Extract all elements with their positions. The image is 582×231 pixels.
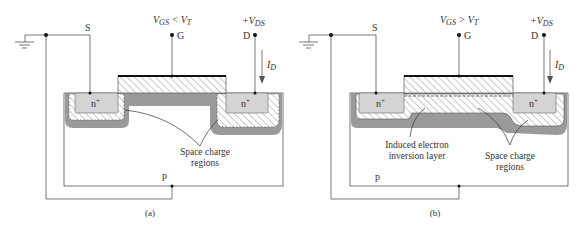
drain-terminal-dot <box>542 33 546 37</box>
ground-icon <box>299 35 318 48</box>
source-label: S <box>372 22 378 33</box>
drain-voltage-label: +VDS <box>242 15 265 28</box>
substrate-label-a: p <box>162 170 167 181</box>
gate-condition-label: VGS < VT <box>153 14 192 27</box>
panel-a: n+ n+ <box>15 14 283 218</box>
inversion-layer-label: Induced electroninversion layer <box>385 140 449 161</box>
drain-label: D <box>531 30 538 41</box>
drain-current-label: ID <box>554 59 564 72</box>
mosfet-figure: n+ n+ <box>0 0 582 231</box>
drain-current-label: ID <box>266 59 276 72</box>
ground-node-dot <box>44 33 48 37</box>
drain-label: D <box>243 30 250 41</box>
ground-node-dot <box>329 33 333 37</box>
gate-condition-label: VGS > VT <box>440 14 479 27</box>
gate-oxide <box>404 76 513 93</box>
caption-a: (a) <box>145 208 155 218</box>
panel-b: n+ n+ <box>299 14 568 218</box>
gate-terminal-dot <box>457 33 461 37</box>
caption-b: (b) <box>430 208 441 218</box>
substrate-label-b: p <box>375 171 380 182</box>
drain-current-arrow-icon <box>259 50 265 84</box>
gate-oxide <box>118 76 226 93</box>
gate-label: G <box>464 30 471 41</box>
drain-terminal-dot <box>253 33 257 37</box>
drain-voltage-label: +VDS <box>530 15 553 28</box>
source-label: S <box>85 22 91 33</box>
gate-label: G <box>177 30 184 41</box>
drain-current-arrow-icon <box>547 50 553 84</box>
gate-terminal-dot <box>170 33 174 37</box>
ground-icon <box>15 35 34 48</box>
